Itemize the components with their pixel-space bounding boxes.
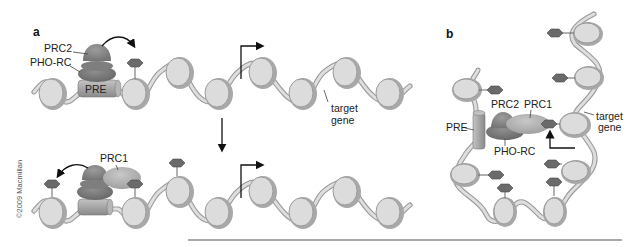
curved-arrow-prc2-to-mark (102, 37, 134, 46)
pho-rc-label-top: PHO-RC (30, 56, 72, 68)
nucleosome (574, 66, 604, 90)
nucleosome (122, 78, 150, 110)
prc2-complex-top (83, 44, 111, 61)
copyright-text: ©2009 Macmillan (15, 160, 24, 218)
pre-label-b: PRE (446, 121, 468, 133)
nucleosome (166, 176, 194, 208)
nucleosome (39, 197, 67, 229)
nucleosome (249, 57, 277, 89)
prc2-label-top: PRC2 (44, 42, 72, 54)
methyl-mark-icon (546, 178, 562, 186)
nucleosome (333, 176, 361, 208)
panel-a-label: a (33, 25, 40, 39)
nucleosome (166, 57, 194, 89)
nucleosome (559, 112, 591, 138)
nucleosome (122, 197, 150, 229)
methyl-mark-icon (127, 180, 143, 188)
target-gene-leader-top (324, 90, 328, 102)
methyl-mark-icon (44, 180, 60, 188)
target-gene-leader-b (584, 112, 594, 115)
methyl-mark-icon (552, 74, 568, 82)
target-gene-label-top-1: target (331, 102, 358, 114)
nucleosome (39, 78, 67, 110)
pre-element-b (473, 111, 485, 150)
nucleosome (249, 176, 277, 208)
methyl-mark-icon (547, 29, 563, 37)
methyl-mark-icon (169, 159, 185, 167)
methyl-mark-icon (487, 86, 503, 94)
pho-rc-leader (70, 66, 80, 72)
prc1-label-b: PRC1 (524, 98, 552, 110)
nucleosome (205, 78, 233, 110)
nucleosome (376, 78, 404, 110)
prc-recruitment-diagram: a ©2009 Macmillan PRE PRC2 PHO-RC target… (0, 0, 638, 247)
nucleosome (493, 197, 517, 227)
nucleosome (289, 197, 317, 229)
nucleosome (376, 197, 404, 229)
methyl-mark-icon (127, 59, 143, 67)
target-gene-label-top-2: gene (331, 114, 355, 126)
nucleosome (573, 22, 603, 46)
nucleosome (289, 78, 317, 110)
pre-element-bottom (78, 199, 113, 215)
pho-rc-upper-top (81, 61, 113, 71)
prc1-label-bottom: PRC1 (100, 152, 128, 164)
methyl-mark-icon (488, 171, 504, 179)
nucleosome (450, 163, 480, 187)
pre-label-top: PRE (85, 83, 107, 95)
methyl-mark-icon (544, 160, 560, 168)
nucleosome (452, 78, 482, 102)
pho-rc-label-b: PHO-RC (494, 145, 536, 157)
nucleosome (333, 57, 361, 89)
nucleosome (561, 160, 591, 184)
panel-b-label: b (446, 27, 453, 41)
target-gene-label-b-2: gene (598, 121, 622, 133)
nucleosome (205, 197, 233, 229)
prc2-label-b: PRC2 (491, 98, 519, 110)
methyl-mark-icon (541, 120, 557, 128)
nucleosome (543, 197, 567, 227)
methyl-mark-icon (497, 184, 513, 192)
